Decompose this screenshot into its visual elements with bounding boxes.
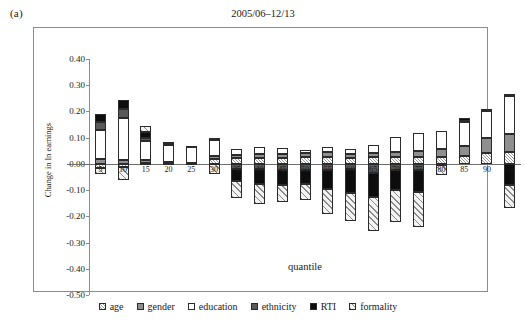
bar-segment-ethnicity[interactable]: [186, 146, 197, 148]
bar-segment-ethnicity[interactable]: [140, 138, 151, 141]
legend-item-rti[interactable]: RTI: [310, 301, 337, 312]
bar-segment-education[interactable]: [95, 130, 106, 159]
bar-segment-rti[interactable]: [118, 100, 129, 109]
bar-segment-formality[interactable]: [322, 189, 333, 214]
bar-group[interactable]: 15: [140, 59, 151, 295]
bar-segment-education[interactable]: [163, 144, 174, 162]
bar-segment-gender[interactable]: [209, 156, 220, 159]
bar-segment-education[interactable]: [300, 150, 311, 154]
bar-segment-formality[interactable]: [231, 181, 242, 198]
bar-group[interactable]: 20: [163, 59, 174, 295]
legend-item-gender[interactable]: gender: [137, 301, 175, 312]
bar-segment-gender[interactable]: [300, 153, 311, 157]
legend-item-education[interactable]: education: [188, 301, 238, 312]
bar-segment-gender[interactable]: [231, 155, 242, 158]
bar-segment-gender[interactable]: [436, 149, 447, 157]
bar-segment-formality[interactable]: [413, 192, 424, 227]
bar-group[interactable]: 85: [459, 59, 470, 295]
bar-group[interactable]: 50: [300, 59, 311, 295]
bar-group[interactable]: 65: [368, 59, 379, 295]
bar-group[interactable]: 40: [254, 59, 265, 295]
bar-segment-age[interactable]: [459, 156, 470, 164]
bar-group[interactable]: 95: [504, 59, 515, 295]
bar-segment-formality[interactable]: [300, 184, 311, 200]
bar-segment-rti[interactable]: [95, 114, 106, 122]
bar-segment-education[interactable]: [368, 145, 379, 153]
bar-segment-gender[interactable]: [413, 151, 424, 157]
legend-item-formality[interactable]: formality: [349, 301, 397, 312]
bar-group[interactable]: 30: [209, 59, 220, 295]
bar-group[interactable]: 25: [186, 59, 197, 295]
bar-segment-gender[interactable]: [254, 154, 265, 158]
bar-segment-gender[interactable]: [140, 160, 151, 162]
bar-segment-education[interactable]: [390, 137, 401, 151]
bar-segment-education[interactable]: [140, 141, 151, 161]
bar-group[interactable]: 55: [322, 59, 333, 295]
bar-segment-gender[interactable]: [481, 138, 492, 152]
bar-segment-ethnicity[interactable]: [481, 109, 492, 111]
legend-swatch-icon: [349, 303, 356, 310]
bar-group[interactable]: 80: [436, 59, 447, 295]
bar-segment-ethnicity[interactable]: [95, 122, 106, 129]
bar-segment-rti[interactable]: [459, 118, 470, 121]
bar-segment-ethnicity[interactable]: [459, 121, 470, 123]
bar-segment-age[interactable]: [504, 152, 515, 164]
y-tick-label: 0.40: [69, 55, 85, 64]
bar-segment-gender[interactable]: [118, 160, 129, 164]
bar-segment-age[interactable]: [322, 157, 333, 164]
bar-segment-gender[interactable]: [459, 146, 470, 156]
bar-segment-education[interactable]: [231, 149, 242, 155]
bar-segment-education[interactable]: [322, 147, 333, 153]
legend-item-ethnicity[interactable]: ethnicity: [251, 301, 297, 312]
bar-segment-gender[interactable]: [504, 134, 515, 152]
bar-segment-formality[interactable]: [254, 184, 265, 204]
bar-segment-formality[interactable]: [140, 126, 151, 132]
bar-segment-gender[interactable]: [322, 152, 333, 157]
bar-group[interactable]: 45: [277, 59, 288, 295]
bar-segment-formality[interactable]: [390, 190, 401, 222]
bar-segment-age[interactable]: [436, 157, 447, 164]
bar-segment-ethnicity[interactable]: [118, 109, 129, 117]
bar-segment-formality[interactable]: [504, 185, 515, 209]
bar-group[interactable]: 10: [118, 59, 129, 295]
bar-segment-gender[interactable]: [345, 154, 356, 157]
bar-segment-education[interactable]: [345, 149, 356, 154]
bar-group[interactable]: 90: [481, 59, 492, 295]
bar-segment-rti[interactable]: [368, 173, 379, 197]
y-axis-title: Change in ln earnings: [43, 122, 53, 196]
y-tick-mark: [86, 243, 89, 244]
bar-segment-rti[interactable]: [163, 142, 174, 144]
bar-segment-education[interactable]: [436, 131, 447, 149]
bar-segment-formality[interactable]: [368, 197, 379, 231]
bar-segment-age[interactable]: [413, 157, 424, 164]
bar-segment-education[interactable]: [186, 146, 197, 162]
bar-segment-education[interactable]: [413, 133, 424, 151]
bar-segment-education[interactable]: [459, 122, 470, 146]
bar-segment-age[interactable]: [481, 153, 492, 164]
bar-segment-education[interactable]: [254, 147, 265, 154]
bar-segment-education[interactable]: [209, 140, 220, 156]
bar-group[interactable]: 75: [413, 59, 424, 295]
bar-segment-education[interactable]: [481, 111, 492, 139]
bar-segment-education[interactable]: [277, 148, 288, 154]
bar-group[interactable]: 35: [231, 59, 242, 295]
bar-segment-age[interactable]: [390, 157, 401, 164]
bar-group[interactable]: 5: [95, 59, 106, 295]
bar-segment-gender[interactable]: [95, 159, 106, 164]
bar-segment-ethnicity[interactable]: [504, 94, 515, 96]
bar-segment-rti[interactable]: [140, 132, 151, 138]
bar-group[interactable]: 60: [345, 59, 356, 295]
y-axis-line: [89, 59, 90, 295]
y-tick-label: -0.10: [66, 186, 85, 195]
bar-segment-gender[interactable]: [390, 152, 401, 157]
bar-segment-formality[interactable]: [345, 193, 356, 221]
bar-group[interactable]: 70: [390, 59, 401, 295]
bar-segment-ethnicity[interactable]: [209, 138, 220, 140]
bar-segment-education[interactable]: [118, 118, 129, 160]
bar-segment-education[interactable]: [504, 96, 515, 134]
bar-segment-gender[interactable]: [277, 154, 288, 158]
legend-item-age[interactable]: age: [99, 301, 124, 312]
bar-segment-formality[interactable]: [277, 185, 288, 201]
bar-segment-age[interactable]: [368, 157, 379, 164]
bar-segment-gender[interactable]: [368, 153, 379, 157]
